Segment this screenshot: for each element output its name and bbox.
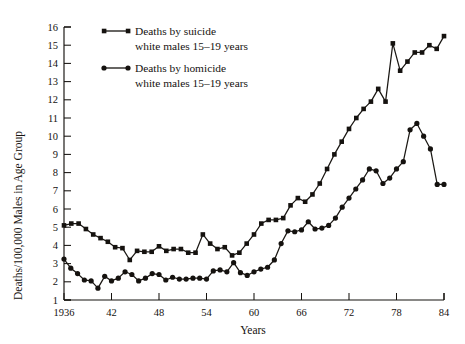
square-marker-icon [126,29,131,34]
data-point-marker [326,223,331,228]
data-point-marker [186,250,191,255]
data-point-marker [407,127,412,132]
data-point-marker [319,226,324,231]
data-point-marker [374,168,379,173]
data-point-marker [82,277,87,282]
data-point-marker [76,221,81,226]
data-point-marker [353,186,358,191]
data-point-marker [122,269,127,274]
data-point-marker [89,278,94,283]
x-axis-tick-label: 60 [249,307,260,318]
data-point-marker [412,50,417,55]
data-point-marker [325,167,330,172]
x-axis-tick-label: 54 [201,307,212,318]
x-axis-tick-label: 66 [296,307,307,318]
x-axis-tick-label: 84 [439,307,450,318]
series-layer [61,34,446,291]
data-point-marker [427,43,432,48]
data-point-marker [347,127,352,132]
data-point-marker [401,159,406,164]
x-axis: 19364248546066727884 [54,293,451,318]
data-point-marker [259,221,264,226]
chart-canvas: Deaths/100,000 Males in Age Group Years … [0,0,465,344]
y-axis-tick-label: 11 [48,113,58,124]
data-point-marker [69,221,74,226]
y-axis-tick-label: 6 [53,204,58,215]
data-point-marker [217,267,222,272]
x-axis-tick-label: 1936 [54,307,75,318]
data-point-marker [252,232,257,237]
data-point-marker [391,41,396,46]
data-point-marker [156,272,161,277]
data-point-marker [346,195,351,200]
series-homicide [61,121,446,291]
data-point-marker [170,275,175,280]
data-point-marker [171,247,176,252]
data-point-marker [367,166,372,171]
y-axis-tick-label: 10 [48,131,59,142]
data-point-marker [442,34,447,39]
data-point-marker [91,232,96,237]
data-point-marker [312,226,317,231]
y-axis-tick-label: 7 [53,185,58,196]
y-axis-title: Deaths/100,000 Males in Age Group [12,131,25,300]
data-point-marker [75,271,80,276]
y-axis-tick-label: 14 [48,58,59,69]
data-point-marker [288,203,293,208]
data-point-marker [157,244,162,249]
data-point-marker [354,116,359,121]
data-point-marker [274,218,279,223]
data-point-marker [361,107,366,112]
chart-legend: Deaths by suicidewhite males 15–19 years… [101,25,248,89]
chart-figure: Deaths/100,000 Males in Age Group Years … [0,0,465,344]
data-point-marker [193,250,198,255]
y-axis-tick-label: 5 [53,222,58,233]
data-point-marker [339,139,344,144]
data-point-marker [113,245,118,250]
data-point-marker [244,241,249,246]
data-point-marker [164,249,169,254]
data-point-marker [120,246,125,251]
data-point-marker [135,249,140,254]
y-axis-tick-label: 15 [48,40,59,51]
data-point-marker [360,177,365,182]
data-point-marker [237,250,242,255]
data-point-marker [208,241,213,246]
series-polyline [64,36,444,260]
data-point-marker [238,270,243,275]
x-axis-tick-label: 78 [391,307,402,318]
data-point-marker [333,216,338,221]
y-axis-tick-label: 3 [53,258,58,269]
data-point-marker [251,269,256,274]
data-point-marker [61,256,66,261]
legend-label-line1: Deaths by homicide [135,62,226,74]
data-point-marker [197,276,202,281]
data-point-marker [421,134,426,139]
data-point-marker [434,47,439,52]
data-point-marker [441,182,446,187]
data-point-marker [136,278,141,283]
data-point-marker [285,228,290,233]
circle-marker-icon [125,65,130,70]
data-point-marker [204,276,209,281]
y-axis-tick-label: 1 [53,295,58,306]
data-point-marker [394,166,399,171]
data-point-marker [310,192,315,197]
data-point-marker [398,68,403,73]
data-point-marker [306,219,311,224]
y-axis-tick-label: 9 [53,149,58,160]
data-point-marker [95,286,100,291]
y-axis-tick-label: 4 [53,240,59,251]
data-point-marker [231,260,236,265]
data-point-marker [387,175,392,180]
data-point-marker [265,265,270,270]
data-point-marker [405,59,410,64]
data-point-marker [414,121,419,126]
y-axis-tick-label: 12 [48,94,59,105]
data-point-marker [380,181,385,186]
data-point-marker [127,258,132,263]
data-point-marker [98,236,103,241]
data-point-marker [150,271,155,276]
data-point-marker [109,278,114,283]
data-point-marker [116,276,121,281]
